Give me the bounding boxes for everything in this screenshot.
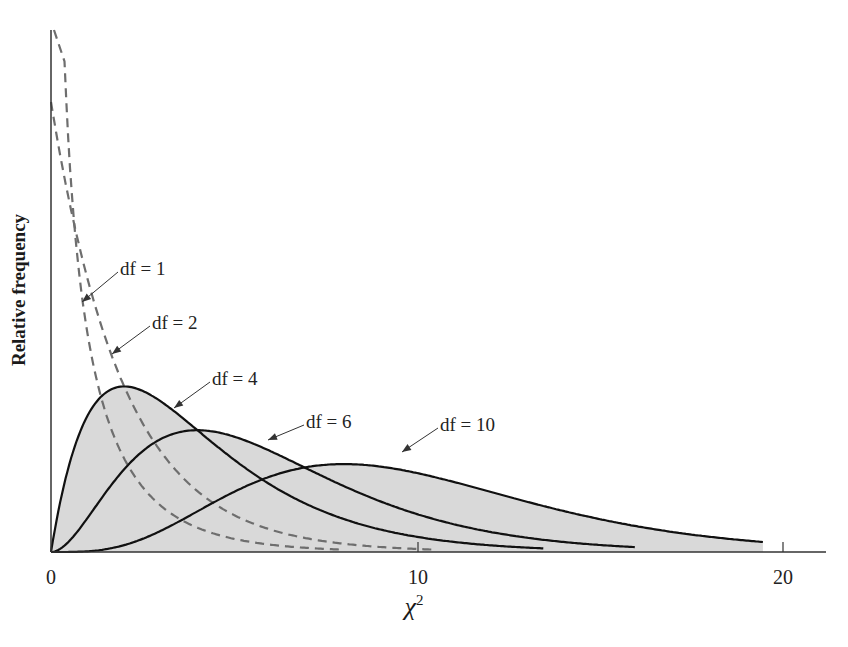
x-axis-label-sup: 2 <box>416 592 424 608</box>
y-axis-label: Relative frequency <box>8 214 30 366</box>
annotation-df-1: df = 1 <box>120 258 166 280</box>
arrow-head-icon <box>112 346 121 354</box>
arrow-head-icon <box>174 400 183 408</box>
annotation-df-10: df = 10 <box>440 414 495 436</box>
x-tick-label-10: 10 <box>408 566 428 589</box>
x-tick-label-20: 20 <box>773 566 793 589</box>
arrow-head-icon <box>402 444 411 452</box>
x-axis-label: χ2 <box>405 592 424 622</box>
x-tick-label-0: 0 <box>46 566 56 589</box>
annotation-df-4: df = 4 <box>212 368 258 390</box>
annotation-df-2: df = 2 <box>152 312 198 334</box>
x-axis-label-base: χ <box>405 592 416 621</box>
annotation-df-6: df = 6 <box>306 411 352 433</box>
distribution-fills <box>51 387 763 553</box>
arrow-head-icon <box>82 294 91 302</box>
chi-square-chart <box>0 0 848 647</box>
arrow-head-icon <box>268 433 278 440</box>
